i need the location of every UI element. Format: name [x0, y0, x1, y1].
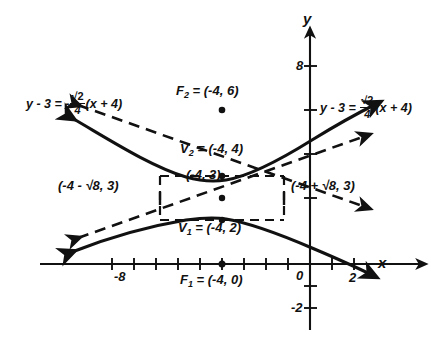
label-center: (-4, 3) [186, 168, 221, 181]
origin-label: 0 [296, 268, 303, 283]
asymptote-equation-right-fraction: √24 [360, 95, 374, 120]
x-tick-label-2: 2 [349, 270, 356, 285]
label-vertex-1-value: = (-4, 2) [192, 220, 242, 235]
label-covertex-right: (-4 + √8, 3) [291, 179, 355, 192]
label-focus-1-symbol: F [180, 272, 188, 287]
x-axis-label: x [378, 254, 386, 271]
y-tick-label--2: -2 [291, 300, 303, 315]
y-axis-label: y [303, 10, 311, 27]
y-tick-label-8: 8 [296, 58, 303, 73]
asymptote-equation-left-fraction: √24 [70, 91, 84, 116]
asymptote-equation-left-numerator: √2 [70, 91, 84, 104]
point-center [219, 195, 225, 201]
asymptote-equation-right-numerator: √2 [360, 95, 374, 108]
label-vertex-2-value: = (-4, 4) [194, 141, 244, 156]
label-vertex-2: V2 = (-4, 4) [180, 142, 243, 158]
plot-canvas [0, 0, 447, 344]
hyperbola-figure: y - 3 = -√24(x + 4) y - 3 = √24(x + 4) F… [0, 0, 447, 344]
label-focus-2-symbol: F [176, 83, 184, 98]
label-focus-2-value: = (-4, 6) [189, 83, 239, 98]
label-focus-2: F2 = (-4, 6) [176, 84, 238, 100]
label-covertex-left: (-4 - √8, 3) [58, 179, 119, 192]
label-focus-1: F1 = (-4, 0) [180, 273, 242, 289]
asymptote-equation-right: y - 3 = √24(x + 4) [320, 96, 412, 121]
asymptote-equation-left-rhs: (x + 4) [86, 97, 122, 111]
asymptote-equation-left: y - 3 = -√24(x + 4) [26, 92, 122, 117]
label-vertex-1-symbol: V [178, 220, 187, 235]
asymptote-equation-left-denominator: 4 [70, 104, 84, 116]
asymptote-equation-left-lhs: y - 3 = - [26, 97, 69, 111]
label-vertex-2-symbol: V [180, 141, 189, 156]
asymptote-equation-right-rhs: (x + 4) [375, 101, 411, 115]
label-vertex-1: V1 = (-4, 2) [178, 221, 241, 237]
asymptote-equation-right-lhs: y - 3 = [320, 101, 359, 115]
asymptote-equation-right-denominator: 4 [360, 108, 374, 120]
x-tick-label--8: -8 [114, 269, 126, 284]
label-focus-1-value: = (-4, 0) [193, 272, 243, 287]
point-f1 [219, 261, 226, 268]
point-f2 [219, 107, 226, 114]
